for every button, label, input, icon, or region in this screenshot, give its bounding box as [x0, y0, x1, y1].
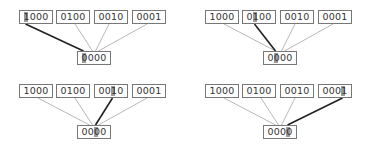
node-label: 0010 [99, 11, 124, 22]
node-label: 0010 [99, 85, 124, 96]
top-node-0001: 0001 [318, 10, 352, 24]
edge [75, 98, 93, 125]
highlighted-edge [26, 24, 84, 51]
highlighted-edge [255, 24, 276, 51]
node-label: 0001 [323, 85, 348, 96]
node-label: 0000 [82, 126, 107, 137]
top-node-0010: 0010 [280, 84, 314, 98]
edge [224, 98, 276, 125]
node-label: 0000 [268, 126, 293, 137]
panel-3: 10000100001000010000 [0, 74, 186, 148]
node-label: 1000 [210, 85, 235, 96]
bottom-node-0000: 0000 [263, 51, 297, 65]
highlighted-edge [96, 98, 113, 125]
edge [261, 98, 279, 125]
top-node-0100: 0100 [56, 10, 90, 24]
highlighted-edge [288, 98, 343, 125]
edge [99, 24, 148, 51]
bottom-node-0000: 0000 [263, 125, 297, 139]
top-node-1000: 1000 [205, 84, 239, 98]
panel-4: 10000100001000010000 [186, 74, 372, 148]
top-node-0010: 0010 [94, 84, 128, 98]
panel-1: 10000100001000010000 [0, 0, 186, 74]
node-label: 0100 [61, 11, 86, 22]
edge [75, 24, 93, 51]
edge [224, 24, 276, 51]
top-node-0100: 0100 [242, 84, 276, 98]
top-node-0010: 0010 [280, 10, 314, 24]
edge [38, 98, 90, 125]
node-label: 0001 [323, 11, 348, 22]
node-label: 0100 [247, 11, 272, 22]
top-node-0100: 0100 [56, 84, 90, 98]
top-node-0010: 0010 [94, 10, 128, 24]
node-label: 0010 [285, 85, 310, 96]
node-label: 0001 [137, 85, 162, 96]
top-node-0001: 0001 [318, 84, 352, 98]
edge [282, 98, 296, 125]
node-label: 1000 [24, 85, 49, 96]
panel-2: 10000100001000010000 [186, 0, 372, 74]
bottom-node-0000: 0000 [77, 51, 111, 65]
node-label: 0000 [82, 52, 107, 63]
node-label: 0001 [137, 11, 162, 22]
node-label: 0000 [268, 52, 293, 63]
top-node-1000: 1000 [19, 10, 53, 24]
top-node-0001: 0001 [132, 84, 166, 98]
top-node-0100: 0100 [242, 10, 276, 24]
bottom-node-0000: 0000 [77, 125, 111, 139]
top-node-0001: 0001 [132, 10, 166, 24]
edge [96, 24, 110, 51]
edge [99, 98, 148, 125]
node-label: 1000 [24, 11, 49, 22]
node-label: 1000 [210, 11, 235, 22]
node-label: 0100 [61, 85, 86, 96]
edge [285, 24, 334, 51]
top-node-1000: 1000 [19, 84, 53, 98]
node-label: 0010 [285, 11, 310, 22]
node-label: 0100 [247, 85, 272, 96]
top-node-1000: 1000 [205, 10, 239, 24]
edge [282, 24, 296, 51]
